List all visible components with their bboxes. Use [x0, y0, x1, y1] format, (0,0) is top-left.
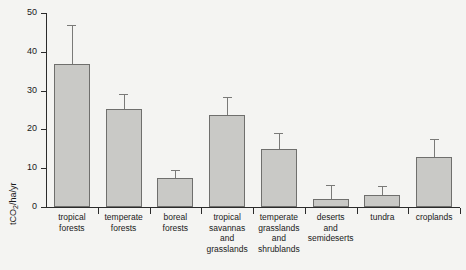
- y-axis-label: tCO2/ha/yr: [8, 0, 26, 225]
- x-axis-category-label-line: forests: [150, 223, 202, 234]
- x-axis-category-label-line: forests: [98, 223, 150, 234]
- y-axis-label-subscript: 2: [12, 205, 19, 209]
- x-axis-category-label-line: boreal: [150, 212, 202, 223]
- y-axis-tick: 0: [41, 207, 46, 208]
- error-bar-cap: [430, 139, 439, 140]
- x-axis-category-label-line: savannas: [201, 223, 253, 234]
- error-bar-cap: [119, 94, 128, 95]
- x-axis-category-label-line: croplands: [408, 212, 460, 223]
- x-axis-category-label-line: temperate: [253, 212, 305, 223]
- error-bar-stem: [331, 185, 332, 199]
- x-axis-category-label-line: tropical: [201, 212, 253, 223]
- y-axis-tick-label: 40: [27, 46, 37, 56]
- x-axis-category-label: desertsandsemideserts: [305, 212, 357, 244]
- error-bar-cap: [274, 133, 283, 134]
- y-axis-tick: 20: [41, 129, 46, 130]
- x-axis-category-label-line: tropical: [46, 212, 98, 223]
- x-axis-category-label: temperateforests: [98, 212, 150, 233]
- x-axis-category-label-line: and: [305, 223, 357, 234]
- error-bar-stem: [72, 25, 73, 65]
- x-axis-category-label-line: and: [253, 233, 305, 244]
- y-axis-tick-label: 30: [27, 85, 37, 95]
- x-axis-category-label-line: grasslands: [253, 223, 305, 234]
- x-axis-category-label: tundra: [357, 212, 409, 223]
- bar: [106, 109, 142, 207]
- y-axis-tick: 40: [41, 52, 46, 53]
- error-bar-stem: [279, 133, 280, 149]
- x-axis-category-label: tropicalforests: [46, 212, 98, 233]
- x-axis-category-label: borealforests: [150, 212, 202, 233]
- x-axis-category-label-line: and: [201, 233, 253, 244]
- bar: [261, 149, 297, 207]
- x-axis-category-label: temperategrasslandsandshrublands: [253, 212, 305, 254]
- x-axis-category-label: tropicalsavannasandgrasslands: [201, 212, 253, 254]
- error-bar-cap: [223, 97, 232, 98]
- error-bar-stem: [124, 94, 125, 109]
- error-bar-stem: [434, 139, 435, 157]
- error-bar-cap: [171, 170, 180, 171]
- x-axis-category-labels: tropicalforeststemperateforestsborealfor…: [46, 209, 460, 267]
- bar: [157, 178, 193, 207]
- x-axis-category-label-line: deserts: [305, 212, 357, 223]
- y-axis-label-tail: /ha/yr: [8, 183, 18, 206]
- x-axis-category-label-line: shrublands: [253, 244, 305, 255]
- error-bar-cap: [326, 185, 335, 186]
- x-axis-category-label-line: forests: [46, 223, 98, 234]
- error-bar-stem: [382, 186, 383, 195]
- x-axis-category-label-line: semideserts: [305, 233, 357, 244]
- error-bar-cap: [67, 25, 76, 26]
- y-axis-tick-label: 20: [27, 123, 37, 133]
- plot-area: 01020304050: [46, 13, 460, 207]
- bar: [54, 64, 90, 207]
- y-axis-tick-label: 10: [27, 162, 37, 172]
- bar: [209, 115, 245, 207]
- y-axis-tick-label: 0: [32, 201, 37, 211]
- y-axis-tick: 50: [41, 13, 46, 14]
- error-bar-stem: [227, 97, 228, 115]
- error-bar-stem: [175, 170, 176, 178]
- y-axis-label-main: tCO: [8, 209, 18, 225]
- x-axis-category-label-line: temperate: [98, 212, 150, 223]
- bar-chart-figure: tCO2/ha/yr 01020304050 tropicalforestste…: [0, 0, 466, 270]
- x-axis-category-label-line: tundra: [357, 212, 409, 223]
- x-axis-category-label: croplands: [408, 212, 460, 223]
- y-axis-tick-label: 50: [27, 7, 37, 17]
- y-axis-spine: [46, 13, 47, 208]
- bar: [416, 157, 452, 207]
- error-bar-cap: [378, 186, 387, 187]
- y-axis-tick: 30: [41, 91, 46, 92]
- bar: [313, 199, 349, 207]
- bar: [364, 195, 400, 207]
- x-axis-separator: [460, 208, 461, 214]
- y-axis-tick: 10: [41, 168, 46, 169]
- x-axis-category-label-line: grasslands: [201, 244, 253, 255]
